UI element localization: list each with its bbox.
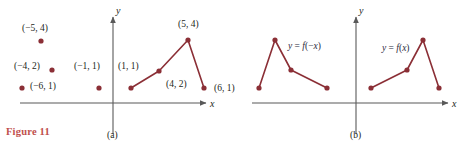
point-6-1 xyxy=(201,85,206,90)
figure-graphics xyxy=(0,0,466,147)
point--4-2 xyxy=(49,67,54,72)
point-b-left-4 xyxy=(324,85,329,90)
label-point-5-4: (5, 4) xyxy=(178,20,199,30)
figure-caption: Figure 11 xyxy=(6,126,50,137)
panel-b-axes xyxy=(252,17,448,134)
figure-11-container: (−5, 4) (−4, 2) (−6, 1) (−1, 1) (1, 1) (… xyxy=(0,0,466,147)
label-point--1-1: (−1, 1) xyxy=(74,62,100,72)
panel-a-axes xyxy=(20,17,206,134)
point-b-right-3 xyxy=(420,37,425,42)
label-point--6-1: (−6, 1) xyxy=(30,82,56,92)
point-b-right-1 xyxy=(368,85,373,90)
label-curve-f-negative-x: y = f(−x) xyxy=(288,42,321,52)
point-1-1 xyxy=(128,85,133,90)
label-point-1-1: (1, 1) xyxy=(118,62,139,72)
label-curve-f-x: y = f(x) xyxy=(382,44,410,54)
point-b-left-2 xyxy=(272,37,277,42)
panel-a-x-axis-label: x xyxy=(210,99,214,109)
point-4-2 xyxy=(156,68,161,73)
point-b-left-3 xyxy=(288,67,293,72)
point--6-1 xyxy=(19,85,24,90)
panel-b-y-axis-label: y xyxy=(359,6,363,16)
point-b-left-1 xyxy=(256,85,261,90)
point--1-1 xyxy=(96,85,101,90)
point--5-4 xyxy=(38,38,43,43)
point-5-4 xyxy=(185,37,190,42)
label-point--4-2: (−4, 2) xyxy=(14,62,40,72)
label-point-4-2: (4, 2) xyxy=(166,80,187,90)
label-point-6-1: (6, 1) xyxy=(214,84,235,94)
point-b-right-4 xyxy=(436,85,441,90)
point-b-right-2 xyxy=(404,67,409,72)
panel-b-caption: (b) xyxy=(350,131,361,141)
panel-b-x-axis-label: x xyxy=(452,99,456,109)
label-point--5-4: (−5, 4) xyxy=(22,24,48,34)
panel-a-y-axis-label: y xyxy=(116,6,120,16)
panel-a-caption: (a) xyxy=(107,131,118,141)
